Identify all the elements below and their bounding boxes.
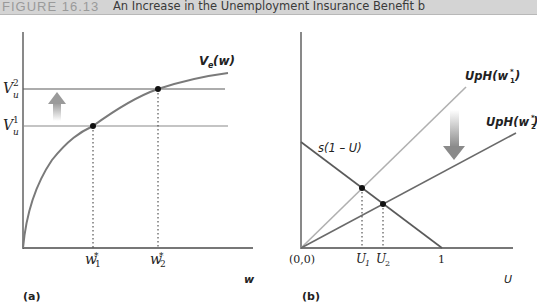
equilibrium-point-u1: [359, 185, 365, 191]
u1-sub: 1: [365, 259, 370, 268]
panel-a-label: (a): [23, 290, 40, 303]
panel-a-x-axis-label: w: [244, 273, 255, 286]
w2-sup: *: [159, 251, 164, 261]
s-one-minus-u-label: s(1 – U): [318, 141, 362, 155]
s-one-minus-u-line: [301, 142, 442, 248]
u2-sub: 2: [385, 259, 390, 268]
panel-b: s(1 – U) UpH(w 1 * ) UpH(w 2 * ) (0,0) U…: [289, 32, 537, 303]
vu1-sup: 1: [13, 115, 19, 125]
equilibrium-point-1: [90, 123, 96, 129]
up-arrow-icon: [48, 92, 66, 121]
equilibrium-point-2: [155, 86, 161, 92]
ve-curve-tail: (w): [213, 54, 235, 68]
down-arrow-icon: [443, 110, 465, 160]
panel-b-label: (b): [302, 290, 320, 303]
panel-b-x-axis-label: U: [504, 273, 512, 286]
w1-sup: *: [94, 251, 99, 261]
uph-w1-label: UpH(w: [465, 69, 508, 83]
uph-w1-close: ): [514, 69, 520, 83]
uph-w2-close: ): [532, 115, 537, 129]
origin-label: (0,0): [289, 253, 315, 266]
panel-a: V u 2 V u 1 w 1 * w 2 * w V e (w) (a): [3, 32, 255, 303]
vu2-sub: u: [13, 90, 19, 100]
equilibrium-point-u2: [380, 201, 386, 207]
vu2-sup: 2: [13, 78, 19, 88]
uph-w1-sup: *: [510, 68, 514, 76]
vu1-sub: u: [13, 127, 19, 137]
economics-diagram: V u 2 V u 1 w 1 * w 2 * w V e (w) (a): [0, 0, 537, 305]
uph-w1-line: [301, 87, 466, 248]
uph-w2-label: UpH(w: [486, 115, 529, 129]
one-label: 1: [438, 253, 445, 266]
